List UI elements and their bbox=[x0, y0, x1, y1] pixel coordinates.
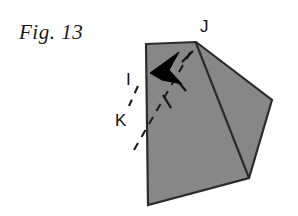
vertex-label-k: K bbox=[115, 112, 126, 129]
edge-guide-dashed-line bbox=[129, 86, 138, 106]
vertex-label-j: J bbox=[200, 18, 209, 35]
figure-caption: Fig. 13 bbox=[19, 20, 83, 45]
vertex-label-i: I bbox=[126, 71, 131, 88]
figure-diagram: Fig. 13 J I K bbox=[0, 0, 298, 216]
